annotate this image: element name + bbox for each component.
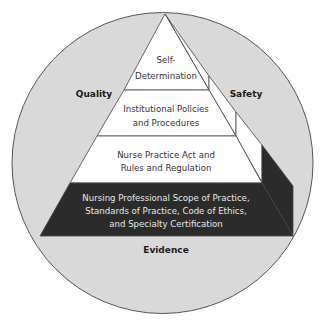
level-1-label-line-2: Determination <box>135 71 197 81</box>
level-4-label-line-2: Standards of Practice, Code of Ethics, <box>85 206 246 216</box>
level-1-label-line-1: Self- <box>157 55 176 65</box>
safety-label: Safety <box>230 89 263 99</box>
pyramid-diagram: Self- Determination Institutional Polici… <box>0 0 324 325</box>
evidence-label: Evidence <box>143 245 189 255</box>
quality-label: Quality <box>76 89 113 99</box>
level-3-label-line-2: Rules and Regulation <box>121 163 212 173</box>
level-2-label-line-2: and Procedures <box>133 118 200 128</box>
level-4-label-line-3: and Specialty Certification <box>109 219 223 229</box>
level-3-label-line-1: Nurse Practice Act and <box>117 150 215 160</box>
level-4-label-line-1: Nursing Professional Scope of Practice, <box>82 193 249 203</box>
level-2-label-line-1: Institutional Policies <box>123 104 209 114</box>
